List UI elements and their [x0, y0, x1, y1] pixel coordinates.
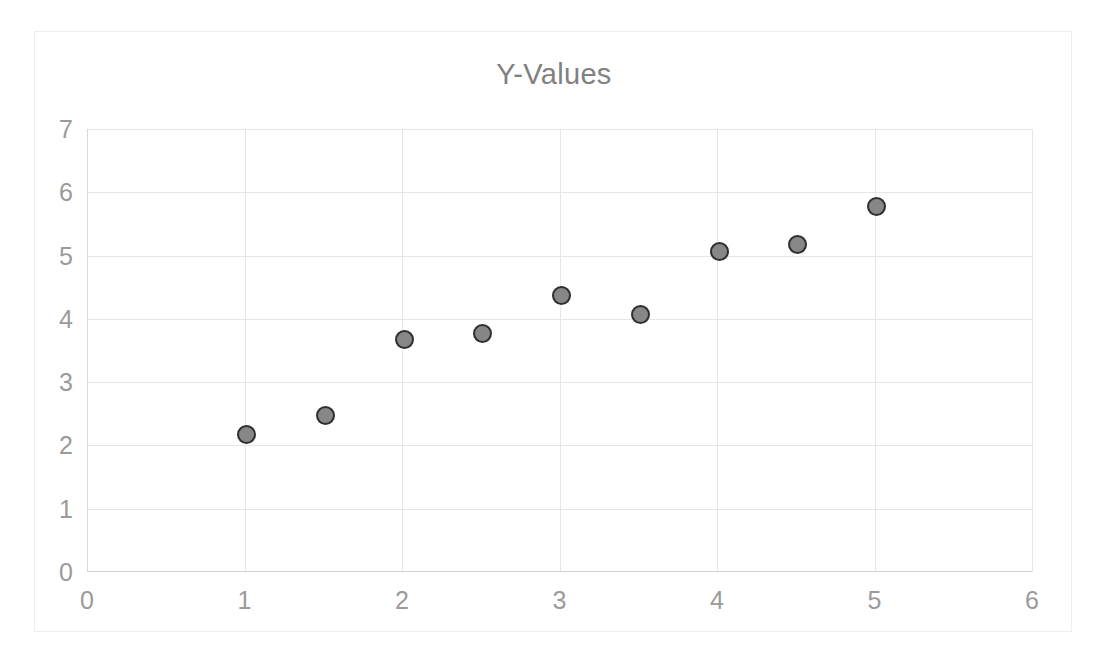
- x-axis-tick-label: 3: [553, 588, 567, 613]
- y-axis-tick-label: 6: [59, 180, 73, 205]
- x-axis-line: [87, 571, 1032, 572]
- gridline-vertical: [402, 129, 403, 572]
- x-axis-tick-label: 1: [238, 588, 252, 613]
- y-axis-line: [87, 129, 88, 572]
- x-axis-tick-label: 5: [868, 588, 882, 613]
- x-axis-tick-label: 6: [1025, 588, 1039, 613]
- gridline-vertical: [875, 129, 876, 572]
- x-axis-tick-label: 0: [80, 588, 94, 613]
- chart-container: Y-Values 01234567 0123456: [34, 31, 1072, 632]
- y-axis-tick-label: 2: [59, 433, 73, 458]
- scatter-point[interactable]: [552, 286, 571, 305]
- y-axis-tick-labels: 01234567: [35, 129, 73, 572]
- scatter-point[interactable]: [631, 305, 650, 324]
- y-axis-tick-label: 7: [59, 117, 73, 142]
- y-axis-tick-label: 0: [59, 560, 73, 585]
- y-axis-tick-label: 3: [59, 370, 73, 395]
- x-axis-tick-label: 2: [395, 588, 409, 613]
- gridline-vertical: [560, 129, 561, 572]
- y-axis-tick-label: 4: [59, 306, 73, 331]
- gridline-vertical: [717, 129, 718, 572]
- scatter-point[interactable]: [237, 425, 256, 444]
- scatter-point[interactable]: [395, 330, 414, 349]
- gridline-vertical: [245, 129, 246, 572]
- x-axis-tick-labels: 0123456: [87, 588, 1032, 620]
- scatter-point[interactable]: [867, 197, 886, 216]
- plot-area: [87, 129, 1032, 572]
- scatter-point[interactable]: [788, 235, 807, 254]
- scatter-point[interactable]: [473, 324, 492, 343]
- chart-title: Y-Values: [35, 58, 1073, 91]
- scatter-point[interactable]: [710, 242, 729, 261]
- y-axis-tick-label: 5: [59, 243, 73, 268]
- scatter-point[interactable]: [316, 406, 335, 425]
- x-axis-tick-label: 4: [710, 588, 724, 613]
- gridline-vertical: [1032, 129, 1033, 572]
- y-axis-tick-label: 1: [59, 496, 73, 521]
